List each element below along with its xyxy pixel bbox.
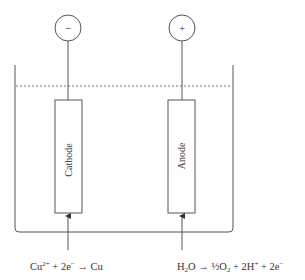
cathode-label: Cathode [63, 143, 74, 177]
cell-container [15, 65, 233, 232]
electrolysis-diagram: − + Cathode Anode Cu2+ + 2e− → Cu H2O → … [0, 0, 305, 280]
positive-terminal-symbol: + [179, 22, 185, 34]
diagram-svg: − + Cathode Anode Cu2+ + 2e− → Cu H2O → … [0, 0, 305, 280]
anode-reaction: H2O → ½O2 + 2H+ + 2e− [177, 260, 283, 274]
anode-label: Anode [176, 142, 187, 169]
negative-terminal-symbol: − [65, 22, 71, 34]
cathode-reaction: Cu2+ + 2e− → Cu [30, 260, 104, 272]
